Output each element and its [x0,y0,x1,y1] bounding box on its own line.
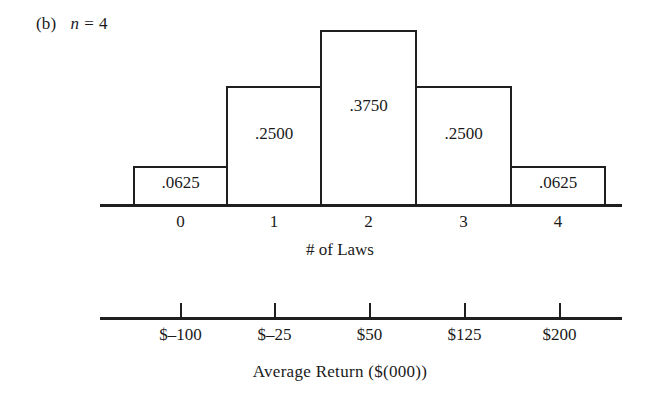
return-axis-label-3: $125 [417,325,512,345]
return-axis-tick-1 [274,303,276,318]
bar-value-label-2: .3750 [320,96,417,116]
bar-value-label-3: .2500 [415,124,512,144]
x-axis-title: # of Laws [200,240,480,260]
histogram-bar-2 [320,30,417,205]
bar-value-label-4: .0625 [510,173,606,193]
histogram-bar-3 [415,86,512,205]
histogram-plot-area: .0625 .2500 .3750 .2500 .0625 0 1 2 3 4 … [0,0,671,406]
return-axis-line [100,317,622,320]
return-axis-tick-0 [180,303,182,318]
x-tick-label-1: 1 [226,212,322,232]
return-axis-title: Average Return ($(000)) [180,362,500,382]
bar-value-label-0: .0625 [133,173,228,193]
histogram-bar-1 [226,86,322,205]
bar-value-label-1: .2500 [226,124,322,144]
return-axis-tick-2 [369,303,371,318]
x-tick-label-0: 0 [133,212,228,232]
x-tick-label-2: 2 [320,212,417,232]
return-axis-tick-4 [559,303,561,318]
x-tick-label-4: 4 [510,212,606,232]
return-axis-label-4: $200 [512,325,607,345]
return-axis-label-1: $–25 [227,325,322,345]
x-axis-line [100,204,622,207]
return-axis-tick-3 [464,303,466,318]
figure-binomial-histogram: (b)n=4 .0625 .2500 .3750 .2500 .0625 0 1… [0,0,671,406]
return-axis-label-0: $–100 [133,325,228,345]
x-tick-label-3: 3 [415,212,512,232]
return-axis-label-2: $50 [322,325,417,345]
